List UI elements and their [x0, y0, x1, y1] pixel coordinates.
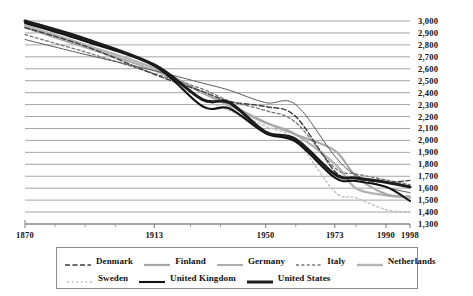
legend-swatch-united-kingdom	[139, 273, 165, 283]
legend-item-denmark[interactable]: Denmark	[65, 256, 133, 266]
x-axis-tick-label: 1973	[326, 230, 344, 240]
chart-legend: Denmark Finland Germany Italy Netherland…	[56, 247, 418, 289]
legend-swatch-denmark	[65, 256, 91, 266]
x-axis-tick-label: 1950	[257, 230, 275, 240]
legend-swatch-netherlands	[357, 256, 383, 266]
y-axis-tick-label: 1,500	[418, 195, 438, 205]
legend-label-germany: Germany	[248, 256, 285, 266]
legend-item-united-states[interactable]: United States	[247, 273, 331, 283]
y-axis-tick-label: 1,600	[418, 183, 438, 193]
y-axis-tick-label: 1,700	[418, 171, 438, 181]
line-chart: 3,0002,9002,8002,7002,6002,5002,4002,300…	[0, 0, 473, 240]
legend-row-2: Sweden United Kingdom United States	[65, 269, 411, 286]
legend-swatch-germany	[217, 256, 243, 266]
y-axis-tick-label: 2,100	[418, 123, 438, 133]
legend-item-netherlands[interactable]: Netherlands	[357, 256, 436, 266]
legend-label-united-kingdom: United Kingdom	[170, 273, 236, 283]
series-line-united-kingdom	[25, 23, 410, 201]
y-axis-tick-label: 2,700	[418, 52, 438, 62]
legend-label-united-states: United States	[278, 273, 331, 283]
legend-item-sweden[interactable]: Sweden	[67, 273, 128, 283]
x-axis-tick-label: 1990	[377, 230, 395, 240]
legend-item-finland[interactable]: Finland	[144, 256, 206, 266]
chart-page: 3,0002,9002,8002,7002,6002,5002,4002,300…	[0, 0, 473, 296]
y-axis-tick-label: 1,300	[418, 219, 438, 229]
y-axis-tick-label: 1,800	[418, 159, 438, 169]
legend-label-sweden: Sweden	[98, 273, 128, 283]
legend-item-germany[interactable]: Germany	[217, 256, 285, 266]
y-axis-tick-label: 2,200	[418, 112, 438, 122]
y-axis-tick-label: 2,300	[418, 100, 438, 110]
y-axis-tick-label: 3,000	[418, 16, 438, 26]
y-axis-tick-label: 1,400	[418, 207, 438, 217]
legend-label-netherlands: Netherlands	[388, 256, 436, 266]
legend-label-finland: Finland	[175, 256, 206, 266]
y-axis-tick-label: 1,900	[418, 147, 438, 157]
y-axis-tick-label: 2,800	[418, 40, 438, 50]
y-axis-tick-label: 2,900	[418, 28, 438, 38]
legend-swatch-finland	[144, 256, 170, 266]
y-axis-tick-label: 2,000	[418, 135, 438, 145]
y-axis-tick-label: 2,500	[418, 76, 438, 86]
y-axis-tick-label: 2,400	[418, 88, 438, 98]
legend-label-denmark: Denmark	[96, 256, 133, 266]
x-axis-tick-label: 1998	[401, 230, 419, 240]
legend-label-italy: Italy	[327, 256, 346, 266]
legend-item-italy[interactable]: Italy	[296, 256, 346, 266]
legend-swatch-italy	[296, 256, 322, 266]
x-axis-tick-label: 1870	[16, 230, 34, 240]
x-axis-tick-label: 1913	[145, 230, 163, 240]
legend-swatch-sweden	[67, 273, 93, 283]
chart-plot-area: 3,0002,9002,8002,7002,6002,5002,4002,300…	[0, 0, 473, 240]
legend-row-1: Denmark Finland Germany Italy Netherland…	[65, 252, 411, 269]
series-line-finland	[25, 28, 410, 197]
legend-swatch-united-states	[247, 273, 273, 283]
series-line-germany	[25, 40, 410, 193]
legend-item-united-kingdom[interactable]: United Kingdom	[139, 273, 236, 283]
y-axis-tick-label: 2,600	[418, 64, 438, 74]
